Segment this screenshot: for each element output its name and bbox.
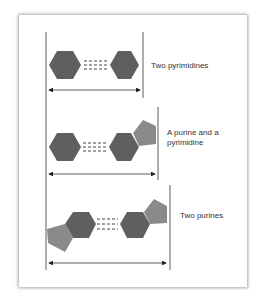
label-two-pyrimidines: Two pyrimidines — [151, 61, 208, 71]
label-two-purines: Two purines — [180, 211, 223, 221]
label-purine-pyrimidine-1: A purine and a — [167, 128, 219, 138]
label-purine-pyrimidine-2: pyrimidine — [167, 138, 203, 148]
panel-two-pyrimidines — [49, 51, 139, 79]
base-pair-diagram — [0, 0, 262, 307]
panel-purine-pyrimidine — [49, 120, 156, 161]
panel-two-purines — [47, 199, 167, 252]
